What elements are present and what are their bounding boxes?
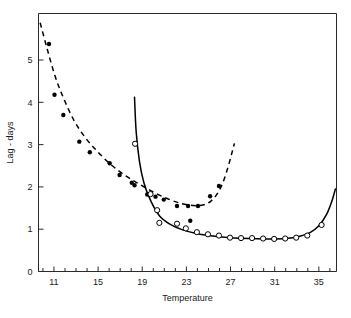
data-point-filled: [196, 204, 200, 208]
y-tick-label: 0: [27, 267, 32, 277]
data-point-filled: [188, 219, 192, 223]
data-point-filled: [208, 194, 212, 198]
x-axis-title: Temperature: [162, 293, 213, 303]
data-point-open: [261, 236, 266, 241]
data-point-filled: [186, 204, 190, 208]
axis-labels-group: 11151923273135012345TemperatureLag - day…: [5, 55, 324, 302]
x-tick-label: 31: [270, 277, 280, 287]
dashed-fitted-curve: [40, 23, 234, 206]
data-point-open: [194, 230, 199, 235]
data-point-open: [238, 235, 243, 240]
x-tick-label: 19: [137, 277, 147, 287]
data-point-open: [305, 233, 310, 238]
data-point-filled: [217, 184, 221, 188]
data-point-open: [216, 233, 221, 238]
data-point-open: [183, 226, 188, 231]
data-point-filled: [52, 93, 56, 97]
data-point-filled: [61, 113, 65, 117]
data-point-open: [227, 235, 232, 240]
data-point-open: [132, 141, 137, 146]
chart-plot-area: 11151923273135012345TemperatureLag - day…: [0, 0, 351, 318]
axes-group: [39, 14, 337, 272]
y-tick-label: 2: [27, 182, 32, 192]
data-point-filled: [162, 197, 166, 201]
data-point-open: [205, 232, 210, 237]
data-point-open: [155, 208, 160, 213]
x-tick-label: 15: [93, 277, 103, 287]
data-point-filled: [47, 42, 51, 46]
data-point-filled: [117, 173, 121, 177]
data-point-open: [148, 192, 153, 197]
data-point-filled: [88, 150, 92, 154]
data-point-open: [249, 235, 254, 240]
data-point-open: [157, 220, 162, 225]
x-tick-label: 23: [181, 277, 191, 287]
y-tick-label: 5: [27, 55, 32, 65]
plot-frame: [39, 14, 337, 272]
y-tick-label: 4: [27, 98, 32, 108]
x-tick-label: 35: [314, 277, 324, 287]
data-point-filled: [107, 161, 111, 165]
chart-figure: 11151923273135012345TemperatureLag - day…: [0, 0, 351, 318]
data-point-filled: [77, 139, 81, 143]
x-tick-label: 11: [49, 277, 58, 287]
data-point-open: [319, 222, 324, 227]
data-point-filled: [132, 183, 136, 187]
y-tick-label: 1: [27, 224, 32, 234]
y-axis-title: Lag - days: [5, 121, 15, 164]
data-point-filled: [175, 204, 179, 208]
solid-fitted-curve: [135, 97, 336, 239]
x-tick-label: 27: [226, 277, 236, 287]
data-point-open: [283, 236, 288, 241]
data-point-open: [294, 235, 299, 240]
data-point-open: [174, 221, 179, 226]
data-point-filled: [153, 194, 157, 198]
data-point-open: [272, 236, 277, 241]
y-tick-label: 3: [27, 140, 32, 150]
